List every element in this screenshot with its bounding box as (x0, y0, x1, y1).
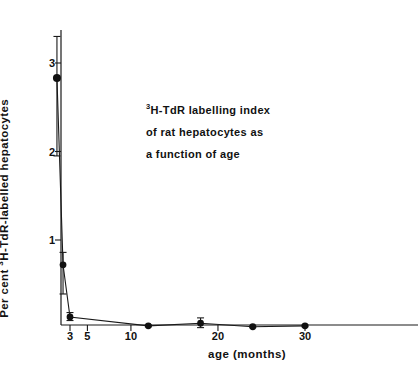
data-point-4 (197, 320, 204, 327)
y-tick-label-1: 1 (41, 234, 55, 246)
x-axis-title: age (months) (208, 348, 286, 360)
data-point-6 (302, 322, 309, 329)
y-axis-title-suffix: H-TdR-labelled hepatocytes (0, 99, 10, 261)
y-axis-title: Per cent 3H-TdR-labelled hepatocytes (0, 99, 10, 318)
annotation-line-1-text: H-TdR labelling index (151, 104, 271, 116)
data-series-layer (53, 36, 309, 330)
x-tick-label-20: 20 (212, 330, 224, 342)
chart-annotation: 3H-TdR labelling index of rat hepatocyte… (146, 96, 270, 165)
x-tick-label-30: 30 (299, 330, 311, 342)
data-point-1 (60, 261, 67, 268)
data-point-2 (67, 314, 74, 321)
y-axis-title-superscript: 3 (0, 261, 5, 266)
data-point-3 (145, 322, 152, 329)
y-axis-title-wrapper: Per cent 3H-TdR-labelled hepatocytes (10, 44, 34, 318)
axes-layer (55, 30, 418, 331)
y-tick-label-2: 2 (41, 146, 55, 158)
data-point-5 (249, 323, 256, 330)
x-tick-label-5: 5 (84, 330, 90, 342)
annotation-line-2: of rat hepatocytes as (146, 121, 270, 143)
plot-area (0, 0, 420, 376)
y-axis-title-prefix: Per cent (0, 266, 10, 318)
y-tick-label-3: 3 (41, 57, 55, 69)
x-tick-label-10: 10 (125, 330, 137, 342)
x-tick-label-3: 3 (67, 330, 73, 342)
annotation-line-1: 3H-TdR labelling index (146, 96, 270, 121)
figure-3h-tdr-labelling-index: Per cent 3H-TdR-labelled hepatocytes 3H-… (0, 0, 420, 376)
data-point-0 (53, 74, 61, 82)
annotation-line-3: a function of age (146, 143, 270, 165)
